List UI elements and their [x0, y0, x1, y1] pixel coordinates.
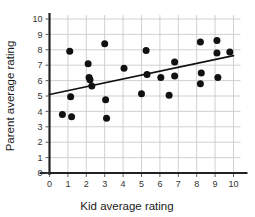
y-tick-label: 4	[37, 107, 42, 117]
data-point	[143, 47, 150, 54]
x-tick-label: 5	[139, 179, 144, 189]
y-tick-label: 6	[37, 76, 42, 86]
data-point	[85, 60, 92, 67]
y-tick-label: 2	[37, 137, 42, 147]
y-tick-label: 7	[37, 60, 42, 70]
y-tick-label: 10	[32, 14, 42, 24]
data-point	[214, 74, 221, 81]
data-point	[213, 37, 220, 44]
data-point	[86, 76, 93, 83]
x-axis-ticks: 012345678910	[47, 174, 239, 189]
x-tick-label: 1	[65, 179, 70, 189]
x-tick-label: 10	[228, 179, 238, 189]
x-tick-label: 9	[213, 179, 218, 189]
data-point	[144, 71, 151, 78]
x-tick-label: 3	[102, 179, 107, 189]
x-tick-label: 7	[176, 179, 181, 189]
data-point	[68, 113, 75, 120]
scatter-chart: 012345678910 012345678910 Kid average ra…	[0, 0, 255, 217]
data-point	[198, 69, 205, 76]
data-point	[213, 49, 220, 56]
data-point	[226, 49, 233, 56]
data-point	[101, 40, 108, 47]
y-tick-label: 8	[37, 45, 42, 55]
y-tick-label: 1	[37, 153, 42, 163]
data-point	[138, 90, 145, 97]
data-point	[88, 82, 95, 89]
data-point	[66, 48, 73, 55]
data-point	[166, 92, 173, 99]
x-tick-label: 0	[47, 179, 52, 189]
y-axis-ticks: 012345678910	[32, 14, 48, 178]
y-tick-label: 3	[37, 122, 42, 132]
data-point	[171, 72, 178, 79]
x-tick-label: 2	[84, 179, 89, 189]
data-point	[157, 74, 164, 81]
y-axis-label: Parent average rating	[4, 41, 16, 152]
data-point	[67, 93, 74, 100]
x-tick-label: 4	[121, 179, 126, 189]
data-point	[59, 111, 66, 118]
y-tick-label: 9	[37, 30, 42, 40]
chart-canvas: 012345678910 012345678910 Kid average ra…	[0, 0, 255, 217]
data-point	[103, 115, 110, 122]
data-point	[197, 80, 204, 87]
x-tick-label: 6	[157, 179, 162, 189]
x-axis-label: Kid average rating	[80, 200, 173, 212]
data-point	[102, 96, 109, 103]
x-tick-label: 8	[194, 179, 199, 189]
y-tick-label: 5	[37, 91, 42, 101]
y-tick-label: 0	[37, 168, 42, 178]
data-point	[171, 59, 178, 66]
data-point	[197, 39, 204, 46]
data-point	[121, 65, 128, 72]
